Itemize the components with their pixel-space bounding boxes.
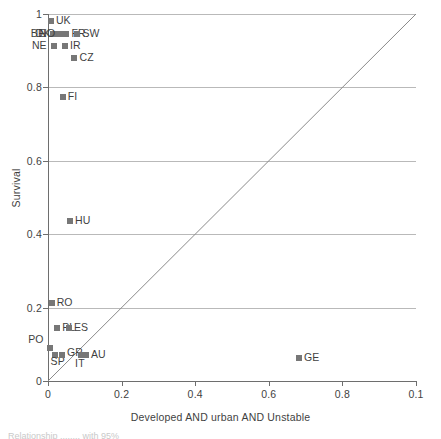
data-point-marker[interactable] — [66, 325, 72, 331]
x-axis-tick — [48, 381, 49, 386]
data-point-label: UK — [56, 14, 71, 26]
data-point-marker[interactable] — [62, 43, 68, 49]
data-point-marker[interactable] — [74, 31, 80, 37]
y-axis-tick-label: 0 — [36, 375, 42, 387]
data-point-marker[interactable] — [51, 43, 57, 49]
x-axis-tick-label: 0.4 — [188, 388, 203, 400]
data-point-marker[interactable] — [296, 355, 302, 361]
y-axis-tick-label: 0.8 — [27, 81, 42, 93]
y-axis-tick-label: 0.6 — [27, 155, 42, 167]
data-point-marker[interactable] — [59, 352, 65, 358]
data-point-label: IT — [75, 357, 85, 369]
data-point-marker[interactable] — [67, 218, 73, 224]
x-axis-line — [48, 381, 416, 382]
data-point-label: FI — [68, 90, 78, 102]
plot-area: UKBEDKNOFRSWNEIRCZFIHUROPLESPOSPGRITAUGE — [48, 14, 416, 381]
y-axis-tick-label: 0.2 — [27, 302, 42, 314]
x-axis-tick-label: 0 — [45, 388, 51, 400]
data-point-label: CZ — [79, 51, 93, 63]
x-axis-tick — [416, 381, 417, 386]
data-point-marker[interactable] — [83, 352, 89, 358]
x-axis-tick — [269, 381, 270, 386]
data-point-label: SW — [82, 27, 99, 39]
data-point-marker[interactable] — [60, 94, 66, 100]
diagonal-identity-line — [48, 14, 416, 381]
data-point-label: GE — [304, 351, 319, 363]
x-axis-tick-label: 0.6 — [261, 388, 276, 400]
x-axis-tick-label: 0.2 — [114, 388, 129, 400]
y-axis-title: Survival — [10, 128, 22, 248]
data-point-label: RO — [57, 296, 73, 308]
data-point-marker[interactable] — [63, 31, 69, 37]
data-point-marker[interactable] — [54, 325, 60, 331]
y-axis-tick-label: 0.4 — [27, 228, 42, 240]
data-point-label: IR — [70, 39, 81, 51]
caption-sliver: Relationship ........ with 95% — [8, 431, 308, 439]
x-axis-tick — [195, 381, 196, 386]
x-axis-tick — [122, 381, 123, 386]
data-point-label: NO — [39, 27, 55, 39]
y-axis-tick-label: 1 — [36, 8, 42, 20]
x-axis-tick-label: 0.1 — [408, 388, 423, 400]
data-point-marker[interactable] — [47, 345, 53, 351]
data-point-label: AU — [91, 348, 106, 360]
x-axis-tick — [342, 381, 343, 386]
data-point-label: HU — [75, 214, 90, 226]
x-axis-title: Developed AND urban AND Unstable — [0, 411, 441, 423]
data-point-label: ES — [74, 321, 88, 333]
x-axis-tick-label: 0.8 — [335, 388, 350, 400]
x-axis-tick-labels: 00.20.40.60.80.1 — [0, 388, 441, 404]
scatter-plot-figure: 00.20.40.60.81 Survival UKBEDKNOFRSWNEIR… — [0, 0, 441, 439]
data-point-marker[interactable] — [71, 55, 77, 61]
data-point-label: PO — [28, 333, 43, 345]
data-point-label: NE — [32, 39, 47, 51]
data-point-marker[interactable] — [48, 18, 54, 24]
data-point-marker[interactable] — [49, 300, 55, 306]
